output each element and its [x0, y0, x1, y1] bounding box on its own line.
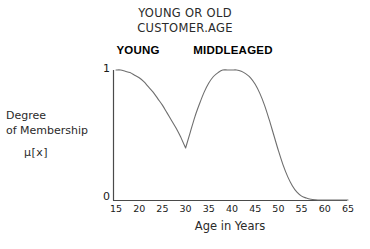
- x-axis-tick-label: 30: [180, 203, 192, 214]
- x-axis-tick-label: 45: [249, 203, 261, 214]
- chart-figure: YOUNG OR OLD CUSTOMER.AGE YOUNG MIDDLEAG…: [0, 0, 370, 249]
- x-axis-tick-label: 15: [110, 203, 122, 214]
- x-axis-tick-labels: 1520253035404550556065: [110, 203, 354, 214]
- x-axis-tick-label: 55: [296, 203, 308, 214]
- x-axis-tick-label: 50: [272, 203, 284, 214]
- plot-area: 1520253035404550556065: [0, 0, 370, 249]
- x-axis-tick-label: 40: [226, 203, 238, 214]
- x-axis-tick-label: 35: [203, 203, 215, 214]
- x-axis-tick-label: 60: [319, 203, 331, 214]
- membership-curve: [116, 70, 348, 200]
- x-axis-tick-label: 25: [156, 203, 168, 214]
- x-axis-tick-label: 65: [342, 203, 354, 214]
- x-axis-tick-label: 20: [133, 203, 145, 214]
